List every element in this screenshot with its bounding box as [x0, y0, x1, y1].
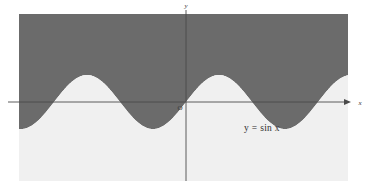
plot-canvas: x y O y = sin x: [0, 0, 368, 194]
origin-label: O: [177, 104, 182, 112]
equation-annotation: y = sin x: [244, 123, 280, 133]
shaded-regions: [19, 14, 349, 181]
sine-function-figure: x y O y = sin x: [0, 0, 368, 194]
